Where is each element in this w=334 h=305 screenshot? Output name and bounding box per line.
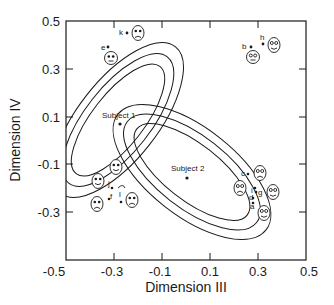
svg-text:d: d [249, 193, 253, 202]
x-tick-label: -0.3 [101, 264, 123, 279]
stimulus-a: a [250, 202, 255, 211]
stimulus-k: k [119, 26, 144, 41]
x-ticks [114, 21, 258, 260]
plot-frame [66, 21, 306, 260]
y-tick-label: 0.1 [42, 110, 60, 125]
svg-text:a: a [250, 202, 255, 211]
svg-text:b: b [242, 42, 247, 51]
x-axis-title: Dimension III [145, 279, 227, 295]
svg-text:f: f [110, 192, 113, 201]
stimulus-l: l [119, 190, 122, 203]
stimulus-j: j [107, 179, 113, 189]
subject2-point [185, 176, 188, 179]
stimulus-d: d [249, 193, 254, 202]
svg-text:e: e [101, 43, 106, 52]
y-tick-label: 0.5 [42, 14, 60, 29]
y-tick-label: -0.1 [38, 157, 60, 172]
x-tick-label: -0.1 [149, 264, 171, 279]
svg-text:g: g [258, 188, 262, 197]
stimulus-g: g [255, 188, 263, 197]
svg-text:l: l [119, 190, 121, 199]
stimulus-c: c [241, 169, 249, 178]
subject1-point [118, 122, 121, 125]
subject1-label: Subject 1 [102, 111, 136, 120]
stimulus-b: b [242, 42, 260, 64]
subject2-label: Subject 2 [171, 164, 205, 173]
stimulus-h: h [260, 33, 280, 53]
stimulus-e: e [101, 43, 118, 65]
x-tick-label: 0.3 [249, 264, 267, 279]
x-tick-label: 0.5 [300, 264, 318, 279]
svg-text:h: h [260, 33, 264, 42]
y-tick-label: -0.3 [38, 205, 60, 220]
x-tick-label: -0.5 [43, 264, 65, 279]
svg-text:c: c [241, 169, 245, 178]
svg-text:k: k [119, 28, 124, 37]
y-tick-label: 0.3 [42, 62, 60, 77]
y-axis-title: Dimension IV [7, 98, 23, 182]
svg-text:j: j [107, 179, 110, 188]
chart: -0.5 -0.3 -0.1 0.1 0.3 0.5 0.5 0.3 0.1 -… [0, 0, 334, 305]
x-tick-label: 0.1 [201, 264, 219, 279]
stimulus-lower-left-faces [91, 160, 138, 212]
stimulus-f: f [108, 192, 113, 201]
